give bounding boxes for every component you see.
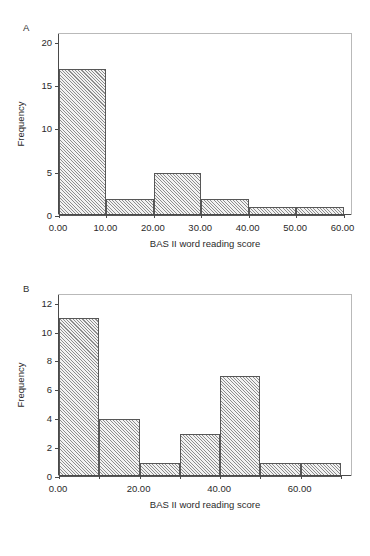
y-axis-tick xyxy=(55,216,59,217)
x-axis-tick-label: 40.00 xyxy=(207,483,231,494)
y-axis-tick xyxy=(55,86,59,87)
y-axis-line-a xyxy=(58,34,59,214)
y-axis-tick-label: 10 xyxy=(28,123,52,134)
x-axis-tick xyxy=(154,214,155,218)
x-axis-tick-label: 10.00 xyxy=(94,222,118,233)
x-axis-tick xyxy=(296,214,297,218)
x-axis-tick xyxy=(301,475,302,479)
x-axis-tick xyxy=(341,475,342,479)
y-axis-tick xyxy=(55,361,59,362)
x-axis-tick xyxy=(59,214,60,218)
histogram-bar xyxy=(154,173,201,216)
y-axis-tick-label: 15 xyxy=(28,80,52,91)
histogram-bar xyxy=(59,318,99,477)
y-axis-tick xyxy=(55,43,59,44)
x-axis-tick xyxy=(201,214,202,218)
histogram-bar xyxy=(180,434,220,477)
x-axis-tick xyxy=(220,475,221,479)
plot-area-a xyxy=(58,33,352,215)
y-axis-tick xyxy=(55,419,59,420)
x-axis-tick xyxy=(249,214,250,218)
histogram-bar xyxy=(220,376,260,477)
x-axis-tick xyxy=(140,475,141,479)
y-axis-tick xyxy=(55,333,59,334)
y-axis-tick-label: 12 xyxy=(28,297,52,308)
y-axis-tick-label: 20 xyxy=(28,36,52,47)
histogram-bar xyxy=(99,419,139,477)
y-axis-tick xyxy=(55,129,59,130)
histogram-panel-a: A 0.0010.0020.0030.0040.0050.0060.000510… xyxy=(0,0,370,278)
histogram-bar xyxy=(59,69,106,216)
y-axis-tick-label: 0 xyxy=(28,471,52,482)
x-axis-tick-label: 20.00 xyxy=(127,483,151,494)
plot-area-b xyxy=(58,294,352,476)
x-axis-tick-label: 50.00 xyxy=(283,222,307,233)
y-axis-title-b: Frequency xyxy=(15,363,26,408)
x-axis-tick-label: 0.00 xyxy=(49,222,68,233)
x-axis-tick-label: 20.00 xyxy=(141,222,165,233)
histogram-panel-b: B 0.0020.0040.0060.00024681012 BAS II wo… xyxy=(0,278,370,556)
x-axis-tick-label: 60.00 xyxy=(288,483,312,494)
y-axis-tick xyxy=(55,173,59,174)
x-axis-tick-label: 40.00 xyxy=(236,222,260,233)
y-axis-tick-label: 8 xyxy=(28,355,52,366)
y-axis-tick xyxy=(55,304,59,305)
panel-label-b: B xyxy=(23,283,30,294)
x-axis-tick xyxy=(106,214,107,218)
y-axis-title-a: Frequency xyxy=(15,102,26,147)
y-axis-tick xyxy=(55,448,59,449)
x-axis-tick xyxy=(260,475,261,479)
x-axis-title-a: BAS II word reading score xyxy=(150,238,260,249)
x-axis-tick-label: 30.00 xyxy=(188,222,212,233)
plot-inner-b xyxy=(59,295,351,475)
x-axis-tick xyxy=(344,214,345,218)
y-axis-tick-label: 6 xyxy=(28,384,52,395)
x-axis-tick-label: 0.00 xyxy=(49,483,68,494)
x-axis-tick xyxy=(99,475,100,479)
plot-inner-a xyxy=(59,34,351,214)
y-axis-tick-label: 10 xyxy=(28,326,52,337)
x-axis-tick-label: 60.00 xyxy=(331,222,355,233)
x-axis-tick xyxy=(180,475,181,479)
y-axis-tick-label: 5 xyxy=(28,166,52,177)
y-axis-tick xyxy=(55,390,59,391)
y-axis-tick xyxy=(55,477,59,478)
x-axis-tick xyxy=(59,475,60,479)
y-axis-tick-label: 4 xyxy=(28,413,52,424)
y-axis-tick-label: 0 xyxy=(28,210,52,221)
x-axis-line-b xyxy=(59,475,351,476)
y-axis-tick-label: 2 xyxy=(28,442,52,453)
panel-label-a: A xyxy=(23,22,30,33)
x-axis-title-b: BAS II word reading score xyxy=(150,499,260,510)
x-axis-line-a xyxy=(59,214,351,215)
